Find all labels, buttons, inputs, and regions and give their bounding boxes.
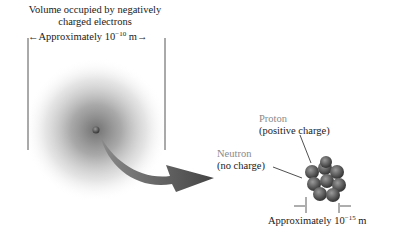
neutron-label: Neutron (no charge) — [217, 148, 265, 172]
atom-title-line2: charged electrons — [20, 16, 170, 28]
proton-label: Proton (positive charge) — [259, 113, 330, 137]
atom-volume-title: Volume occupied by negatively charged el… — [20, 4, 170, 28]
right-arrow-icon: → — [137, 31, 148, 42]
neutron-pointer — [273, 167, 302, 178]
proton-desc: (positive charge) — [259, 125, 330, 137]
proton-title: Proton — [259, 113, 330, 125]
left-arrow-icon: ← — [28, 31, 39, 42]
neutron-desc: (no charge) — [217, 160, 265, 172]
proton-pointer — [300, 135, 311, 163]
atom-size-label: ←Approximately 10−10 m→ — [28, 31, 147, 43]
atom-title-line1: Volume occupied by negatively — [20, 4, 170, 16]
neutron-title: Neutron — [217, 148, 265, 160]
nucleus-size-label: Approximately 10−15 m — [268, 215, 366, 227]
nucleus-dot — [93, 127, 100, 134]
